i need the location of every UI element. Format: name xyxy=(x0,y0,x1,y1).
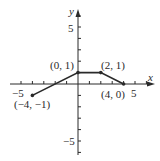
y-tick-label-neg5: −5 xyxy=(63,135,75,147)
point-neg4-neg1 xyxy=(31,94,35,98)
y-axis-label: y xyxy=(68,5,74,17)
point-label-4-0: (4, 0) xyxy=(101,88,125,101)
x-tick-label-5: 5 xyxy=(131,87,137,99)
x-axis-label: x xyxy=(147,71,153,83)
point-4-0 xyxy=(122,82,126,86)
y-axis xyxy=(78,16,81,155)
coordinate-plane: x y −5 5 5 −5 (−4, −1) (0, 1) (2, 1) (4,… xyxy=(0,0,160,161)
y-tick-label-5: 5 xyxy=(68,22,74,34)
point-0-1 xyxy=(76,71,80,75)
point-label-2-1: (2, 1) xyxy=(101,59,125,72)
point-2-1 xyxy=(99,71,103,75)
point-label-neg4-neg1: (−4, −1) xyxy=(14,98,51,111)
x-axis xyxy=(10,81,150,84)
point-label-0-1: (0, 1) xyxy=(50,59,74,72)
y-axis-arrow-icon xyxy=(76,9,81,17)
